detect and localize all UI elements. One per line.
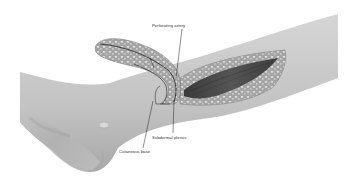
label-perforating-artery: Perforating artery [152,23,185,28]
leg-flap-illustration: Perforating artery Subdermal plexus Cuta… [0,0,356,187]
ankle-bone [99,122,109,128]
label-subdermal-plexus: Subdermal plexus [152,135,186,140]
label-cutaneous-base: Cutaneous base [119,149,150,154]
